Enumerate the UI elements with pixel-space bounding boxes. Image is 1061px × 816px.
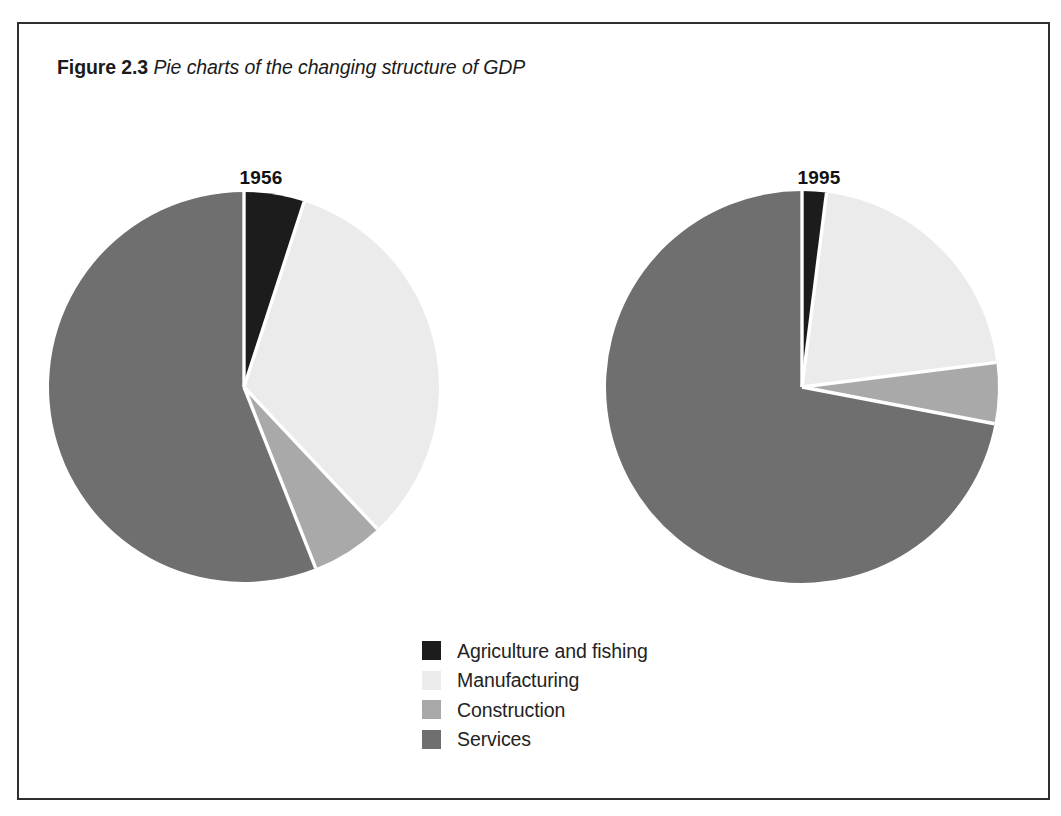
chart-legend: Agriculture and fishing Manufacturing Co… xyxy=(422,636,842,754)
legend-item: Construction xyxy=(422,695,842,725)
legend-swatch-manufacturing xyxy=(422,671,441,690)
legend-label-agriculture: Agriculture and fishing xyxy=(457,641,648,661)
legend-swatch-agriculture xyxy=(422,641,441,660)
legend-label-services: Services xyxy=(457,729,531,749)
figure-caption: Figure 2.3 Pie charts of the changing st… xyxy=(57,55,525,79)
legend-item: Services xyxy=(422,725,842,755)
figure-frame: Figure 2.3 Pie charts of the changing st… xyxy=(17,22,1050,800)
legend-swatch-services xyxy=(422,730,441,749)
pie-svg-1956 xyxy=(42,185,446,589)
legend-item: Agriculture and fishing xyxy=(422,636,842,666)
pie-svg-1995 xyxy=(599,184,1005,590)
legend-label-construction: Construction xyxy=(457,700,565,720)
legend-swatch-construction xyxy=(422,700,441,719)
legend-label-manufacturing: Manufacturing xyxy=(457,670,579,690)
figure-caption-label: Figure 2.3 xyxy=(57,56,148,78)
pie-slice-manufacturing xyxy=(802,193,996,387)
legend-item: Manufacturing xyxy=(422,666,842,696)
figure-caption-text: Pie charts of the changing structure of … xyxy=(153,56,525,78)
